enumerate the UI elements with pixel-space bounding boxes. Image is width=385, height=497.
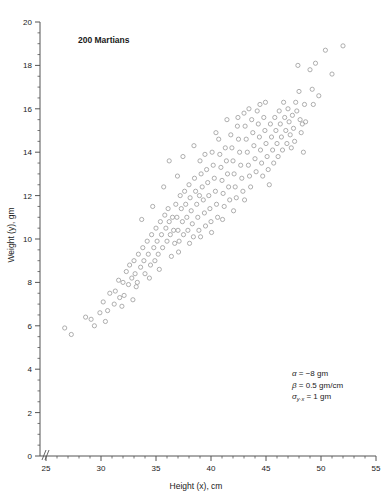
data-point (169, 254, 173, 258)
data-point (293, 139, 297, 143)
data-point (132, 259, 136, 263)
data-point (253, 157, 257, 161)
data-point (311, 102, 315, 106)
data-point (69, 332, 73, 336)
data-point (166, 207, 170, 211)
data-point (126, 282, 130, 286)
data-point (120, 304, 124, 308)
data-point (291, 126, 295, 130)
data-point (133, 272, 137, 276)
data-point (232, 172, 236, 176)
data-point (199, 172, 203, 176)
data-point (206, 180, 210, 184)
data-point (181, 154, 185, 158)
data-point (310, 87, 314, 91)
data-point (295, 109, 299, 113)
data-point (289, 146, 293, 150)
data-point (176, 228, 180, 232)
data-point (263, 100, 267, 104)
x-tick-label: 35 (152, 464, 161, 473)
data-point (179, 207, 183, 211)
data-point (225, 172, 229, 176)
data-point (101, 300, 105, 304)
data-point (159, 233, 163, 237)
data-point (236, 137, 240, 141)
data-point (139, 265, 143, 269)
x-tick-label: 30 (97, 464, 106, 473)
data-point (164, 226, 168, 230)
data-point (84, 315, 88, 319)
data-point (188, 196, 192, 200)
data-point (279, 135, 283, 139)
data-point (238, 150, 242, 154)
data-point (246, 163, 250, 167)
data-point (234, 196, 238, 200)
data-point (220, 178, 224, 182)
data-point (219, 165, 223, 169)
data-point (330, 72, 334, 76)
y-axis-ticks (35, 22, 40, 456)
data-point (140, 217, 144, 221)
annotation-line: α = −8 gm (292, 369, 328, 378)
data-point (218, 152, 222, 156)
y-axis-title: Weight (y), gm (6, 207, 16, 262)
data-point (200, 185, 204, 189)
data-point (223, 146, 227, 150)
data-point (209, 230, 213, 234)
data-point (187, 183, 191, 187)
data-point (167, 159, 171, 163)
data-point (302, 102, 306, 106)
data-point (213, 189, 217, 193)
y-tick-label: 6 (28, 322, 33, 331)
data-point (231, 159, 235, 163)
data-point (247, 174, 251, 178)
data-point (161, 246, 165, 250)
data-point (202, 211, 206, 215)
data-point (155, 239, 159, 243)
data-point (186, 228, 190, 232)
data-point (284, 128, 288, 132)
data-point (266, 167, 270, 171)
data-point (297, 89, 301, 93)
chart-canvas: 02468101214161820 25303540455055 200 Mar… (0, 0, 385, 497)
data-point (231, 209, 235, 213)
data-point (241, 189, 245, 193)
data-point (214, 202, 218, 206)
data-point (180, 220, 184, 224)
data-point (323, 48, 327, 52)
data-point (158, 220, 162, 224)
data-point (175, 215, 179, 219)
data-point (128, 263, 132, 267)
data-point (233, 185, 237, 189)
data-point (174, 202, 178, 206)
data-point (260, 161, 264, 165)
data-point (130, 276, 134, 280)
data-point (250, 118, 254, 122)
data-point (183, 189, 187, 193)
data-point (272, 161, 276, 165)
data-point (288, 133, 292, 137)
data-point (254, 170, 258, 174)
x-tick-label: 45 (262, 464, 271, 473)
data-point (278, 122, 282, 126)
data-point (148, 263, 152, 267)
data-point (264, 141, 268, 145)
x-tick-label: 50 (317, 464, 326, 473)
data-point (212, 176, 216, 180)
data-point (268, 122, 272, 126)
data-point (280, 148, 284, 152)
data-point (89, 317, 93, 321)
data-point (192, 176, 196, 180)
data-point (229, 133, 233, 137)
data-point (209, 220, 213, 224)
data-point (198, 235, 202, 239)
data-point (256, 122, 260, 126)
data-point (168, 233, 172, 237)
data-point (216, 215, 220, 219)
data-point (203, 224, 207, 228)
data-point (258, 102, 262, 106)
data-point (201, 198, 205, 202)
data-point (276, 154, 280, 158)
data-point (196, 215, 200, 219)
data-point (230, 146, 234, 150)
